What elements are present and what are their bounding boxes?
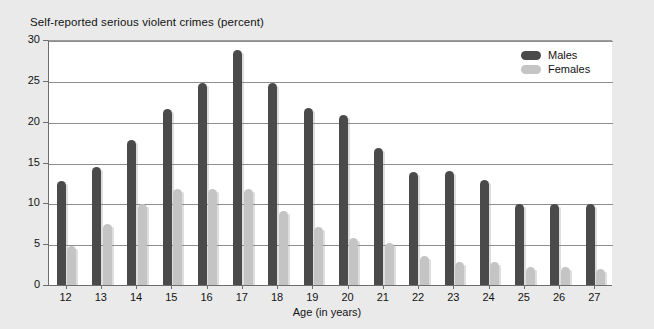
legend-item-males: Males [521,48,590,62]
bar-females-age-17 [244,189,253,285]
bar-females-age-19 [314,227,323,285]
x-tick-label-18: 18 [262,291,292,303]
x-tick-label-17: 17 [227,291,257,303]
bar-females-age-18 [279,211,288,285]
y-tick-label: 10 [8,196,40,208]
bar-males-age-26 [550,204,559,285]
y-tick-mark [43,40,48,41]
x-tick-label-25: 25 [509,291,539,303]
bar-females-age-16 [208,189,217,285]
x-tick-label-27: 27 [579,291,609,303]
x-tick-mark [594,285,595,289]
y-tick-mark [43,244,48,245]
bar-males-age-18 [268,83,277,285]
x-tick-label-22: 22 [403,291,433,303]
bar-females-age-20 [349,238,358,285]
legend-item-females: Females [521,62,590,76]
x-axis-line [48,285,612,286]
chart-figure: Self-reported serious violent crimes (pe… [0,0,654,329]
x-tick-mark [559,285,560,289]
gridline [49,82,613,83]
x-tick-label-23: 23 [438,291,468,303]
bar-males-age-27 [586,204,595,285]
x-tick-mark [277,285,278,289]
bar-males-age-13 [92,167,101,285]
bar-females-age-26 [561,267,570,285]
x-tick-mark [207,285,208,289]
bar-females-age-25 [526,267,535,285]
bar-females-age-12 [67,246,76,285]
x-tick-mark [524,285,525,289]
x-tick-label-12: 12 [51,291,81,303]
x-tick-mark [312,285,313,289]
y-tick-mark [43,163,48,164]
x-tick-label-13: 13 [86,291,116,303]
bar-males-age-21 [374,148,383,285]
x-tick-label-19: 19 [297,291,327,303]
legend-label-females: Females [548,63,590,75]
bar-females-age-23 [455,262,464,285]
x-tick-label-20: 20 [333,291,363,303]
legend-swatch-males-icon [521,51,541,60]
y-tick-mark [43,81,48,82]
bar-females-age-21 [385,243,394,285]
x-tick-label-26: 26 [544,291,574,303]
bar-males-age-22 [409,172,418,285]
y-tick-mark [43,122,48,123]
bar-females-age-22 [420,256,429,285]
gridline [49,41,613,42]
bar-females-age-24 [490,262,499,285]
x-tick-label-24: 24 [474,291,504,303]
x-tick-mark [453,285,454,289]
x-tick-mark [171,285,172,289]
bar-males-age-14 [127,140,136,285]
bar-males-age-20 [339,115,348,285]
bar-females-age-15 [173,189,182,285]
legend-label-males: Males [548,49,577,61]
y-tick-label: 20 [8,115,40,127]
bar-females-age-14 [138,204,147,285]
x-tick-label-21: 21 [368,291,398,303]
bar-females-age-27 [596,269,605,285]
y-tick-label: 0 [8,278,40,290]
bar-males-age-15 [163,109,172,285]
x-tick-mark [383,285,384,289]
bar-males-age-24 [480,180,489,285]
y-tick-label: 15 [8,156,40,168]
chart-legend: Males Females [513,44,598,81]
x-tick-mark [101,285,102,289]
y-tick-mark [43,203,48,204]
x-tick-label-16: 16 [192,291,222,303]
x-tick-mark [242,285,243,289]
gridline [49,123,613,124]
x-tick-label-15: 15 [156,291,186,303]
bar-males-age-25 [515,204,524,285]
y-tick-label: 30 [8,33,40,45]
bar-males-age-16 [198,83,207,285]
bar-males-age-23 [445,171,454,285]
x-tick-mark [418,285,419,289]
legend-swatch-females-icon [521,65,541,74]
x-tick-label-14: 14 [121,291,151,303]
x-axis-title: Age (in years) [0,306,654,318]
y-tick-label: 25 [8,74,40,86]
x-tick-mark [66,285,67,289]
x-tick-mark [348,285,349,289]
x-tick-mark [489,285,490,289]
bar-males-age-19 [304,108,313,285]
bar-females-age-13 [103,224,112,285]
bar-males-age-17 [233,50,242,285]
y-tick-mark [43,285,48,286]
bar-males-age-12 [57,181,66,285]
x-tick-mark [136,285,137,289]
chart-title: Self-reported serious violent crimes (pe… [30,16,264,28]
y-tick-label: 5 [8,237,40,249]
